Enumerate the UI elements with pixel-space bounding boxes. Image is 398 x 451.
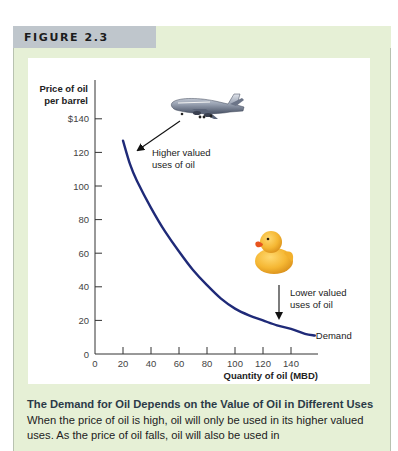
caption-body: When the price of oil is high, oil will …	[27, 414, 363, 442]
y-tick-label: 20	[78, 315, 89, 326]
rubber-duck-icon	[255, 231, 293, 274]
y-axis-title: Price of oil per barrel	[39, 83, 88, 106]
figure-caption: The Demand for Oil Depends on the Value …	[27, 397, 389, 444]
demand-curve-label: Demand	[316, 330, 352, 341]
x-tick-label: 80	[202, 358, 213, 369]
y-tick-label: 60	[78, 248, 89, 259]
x-tick-label: 60	[174, 358, 185, 369]
y-tick-label: 100	[73, 181, 89, 192]
demand-chart: Price of oil per barrel 020406080100120$…	[0, 0, 398, 451]
y-tick-label: 40	[78, 281, 89, 292]
svg-text:uses of oil: uses of oil	[290, 299, 333, 310]
y-tick-label: 80	[78, 214, 89, 225]
svg-text:Lower valued: Lower valued	[290, 287, 347, 298]
x-tick-label: 140	[283, 358, 299, 369]
svg-text:Price of oil: Price of oil	[39, 83, 88, 94]
x-tick-label: 100	[227, 358, 243, 369]
x-tick-label: 20	[118, 358, 129, 369]
higher-annotation: Higher valued uses of oil	[152, 147, 211, 170]
caption-title: The Demand for Oil Depends on the Value …	[27, 398, 373, 410]
x-tick-label: 40	[146, 358, 157, 369]
airplane-icon	[171, 94, 244, 119]
higher-arrow	[138, 121, 180, 150]
svg-text:Higher valued: Higher valued	[152, 147, 211, 158]
x-tick-label: 120	[255, 358, 271, 369]
lower-annotation: Lower valued uses of oil	[290, 287, 347, 310]
x-axis-title: Quantity of oil (MBD)	[224, 370, 318, 381]
svg-text:per barrel: per barrel	[44, 95, 88, 106]
x-axis-ticks: 020406080100120140	[92, 347, 299, 369]
x-tick-label: 0	[92, 358, 97, 369]
y-tick-label: $140	[68, 113, 89, 124]
y-axis-ticks: 020406080100120$140	[68, 113, 102, 359]
svg-text:uses of oil: uses of oil	[152, 159, 195, 170]
y-tick-label: 120	[73, 147, 89, 158]
y-tick-label: 0	[84, 349, 89, 360]
